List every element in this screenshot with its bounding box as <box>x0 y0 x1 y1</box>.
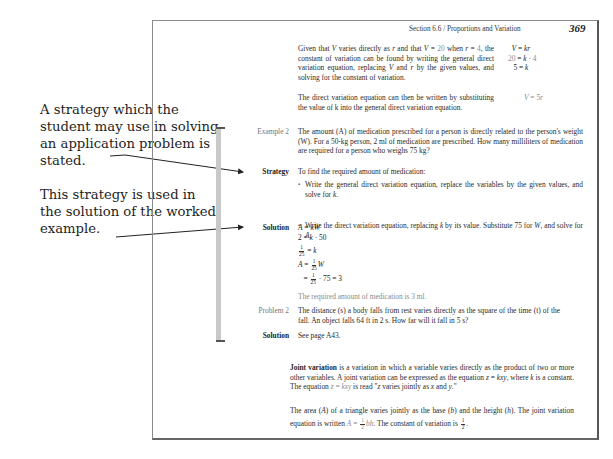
solution-line-1: A = kW <box>298 223 342 233</box>
joint-variation-term: Joint variation <box>290 363 337 372</box>
problem-text: The distance (s) a body falls from rest … <box>298 306 560 325</box>
intro-paragraph-2: The direct variation equation can then b… <box>298 93 494 112</box>
problem-solution-link[interactable]: See page A43. <box>298 331 341 341</box>
solution-label: Solution <box>233 223 289 232</box>
example-label: Example 2 <box>233 127 289 136</box>
example-bracket-bar <box>216 127 221 341</box>
solution-work: A = kW 2 = k · 50 125 = k A = 125W = 125… <box>298 223 342 287</box>
equation-line: V = kr <box>508 44 536 54</box>
page-number: 369 <box>569 22 586 34</box>
bracket-top-tick <box>216 127 225 129</box>
strategy-intro: To find the required amount of medicatio… <box>298 167 583 177</box>
intro-paragraph-1: Given that V varies directly as r and th… <box>298 44 494 82</box>
section-header: Section 6.6 / Proportions and Variation <box>409 25 521 33</box>
strategy-bullet-1: Write the general direct variation equat… <box>298 180 583 199</box>
intro-equation-2: V = 5r <box>524 93 543 103</box>
problem-label: Problem 2 <box>233 306 289 315</box>
intro-equations: V = kr 20 = k · 4 5 = k <box>508 44 536 73</box>
solution-line-2: 2 = k · 50 <box>298 233 342 245</box>
joint-variation-paragraph: Joint variation is a variation in which … <box>290 363 574 392</box>
solution-line-5: = 125 · 75 = 3 <box>298 273 342 287</box>
triangle-area-paragraph: The area (A) of a triangle varies jointl… <box>290 404 574 430</box>
strategy-label: Strategy <box>233 167 289 176</box>
problem-solution-label: Solution <box>233 331 289 340</box>
solution-conclusion: The required amount of medication is 3 m… <box>298 292 426 302</box>
solution-line-3: 125 = k <box>298 245 342 259</box>
solution-line-4: A = 125W <box>298 259 342 273</box>
example-text: The amount (A) of medication prescribed … <box>298 127 583 156</box>
bracket-bottom-tick <box>216 340 225 342</box>
equation-line: 5 = k <box>508 63 536 73</box>
equation-line: 20 = k · 4 <box>508 54 536 64</box>
